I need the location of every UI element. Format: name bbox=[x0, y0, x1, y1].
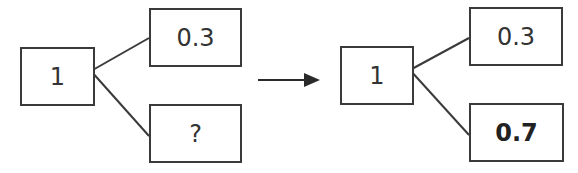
before-root-label: 1 bbox=[50, 63, 65, 91]
right-arrow-icon bbox=[258, 73, 320, 87]
after-branch-node-1: 0.3 bbox=[469, 7, 563, 66]
edge-before-root-to-branch-1 bbox=[91, 38, 149, 71]
edge-before-root-to-branch-2 bbox=[91, 71, 149, 136]
after-branch-2-label: 0.7 bbox=[495, 119, 538, 147]
edge-after-root-to-branch-2 bbox=[410, 70, 469, 135]
after-root-label: 1 bbox=[369, 62, 384, 90]
after-root-node: 1 bbox=[340, 46, 414, 105]
before-branch-2-label: ? bbox=[189, 120, 202, 148]
edge-after-root-to-branch-1 bbox=[410, 38, 469, 70]
after-branch-node-2: 0.7 bbox=[469, 103, 564, 162]
before-root-node: 1 bbox=[20, 47, 95, 106]
after-branch-1-label: 0.3 bbox=[497, 23, 535, 51]
before-branch-node-2: ? bbox=[149, 104, 242, 163]
before-branch-1-label: 0.3 bbox=[176, 24, 214, 52]
before-branch-node-1: 0.3 bbox=[149, 8, 242, 67]
